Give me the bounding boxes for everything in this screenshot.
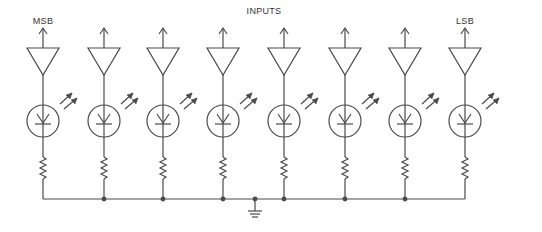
output-arrow-icon [401, 28, 409, 48]
junction-dot [161, 197, 166, 202]
output-arrow-icon [159, 28, 167, 48]
channel-5 [329, 28, 379, 201]
resistor-icon [101, 157, 107, 179]
channel-7 [449, 28, 499, 199]
channel-4 [268, 28, 318, 201]
output-arrow-icon [341, 28, 349, 48]
photodiode-icon [147, 105, 179, 137]
resistor-icon [40, 157, 46, 179]
photodiode-icon [329, 105, 361, 137]
light-rays-icon [240, 93, 257, 109]
buffer-amplifier-icon [329, 48, 361, 75]
output-arrow-icon [280, 28, 288, 48]
light-rays-icon [60, 93, 77, 109]
light-rays-icon [121, 93, 138, 109]
photodiode-icon [268, 105, 300, 137]
resistor-icon [462, 157, 468, 179]
ground-icon [248, 197, 262, 217]
photodiode-array-diagram: INPUTS MSB LSB [0, 0, 542, 232]
buffer-amplifier-icon [27, 48, 59, 75]
buffer-amplifier-icon [389, 48, 421, 75]
output-arrow-icon [461, 28, 469, 48]
channel-6 [389, 28, 439, 201]
junction-dot [343, 197, 348, 202]
msb-label: MSB [33, 16, 53, 26]
resistor-icon [220, 157, 226, 179]
output-arrow-icon [39, 28, 47, 48]
junction-dot [403, 197, 408, 202]
light-rays-icon [180, 93, 197, 109]
resistor-icon [402, 157, 408, 179]
lsb-label: LSB [456, 16, 474, 26]
light-rays-icon [301, 93, 318, 109]
photodiode-icon [27, 105, 59, 137]
light-rays-icon [362, 93, 379, 109]
buffer-amplifier-icon [268, 48, 300, 75]
buffer-amplifier-icon [88, 48, 120, 75]
resistor-icon [342, 157, 348, 179]
light-rays-icon [422, 93, 439, 109]
channel-2 [147, 28, 197, 201]
channel-0 [27, 28, 77, 199]
buffer-amplifier-icon [207, 48, 239, 75]
output-arrow-icon [219, 28, 227, 48]
resistor-icon [160, 157, 166, 179]
circuit-schematic [0, 0, 542, 232]
channel-1 [88, 28, 138, 201]
resistor-icon [281, 157, 287, 179]
photodiode-icon [88, 105, 120, 137]
buffer-amplifier-icon [147, 48, 179, 75]
output-arrow-icon [100, 28, 108, 48]
junction-dot [102, 197, 107, 202]
photodiode-icon [207, 105, 239, 137]
junction-dot [282, 197, 287, 202]
junction-dot [221, 197, 226, 202]
inputs-title: INPUTS [247, 6, 282, 16]
light-rays-icon [482, 93, 499, 109]
buffer-amplifier-icon [449, 48, 481, 75]
channel-3 [207, 28, 257, 201]
photodiode-icon [449, 105, 481, 137]
photodiode-icon [389, 105, 421, 137]
